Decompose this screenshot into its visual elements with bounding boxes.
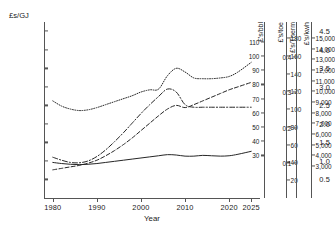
- x-tick-label: 1990: [88, 203, 105, 212]
- x-tick-label: 1980: [44, 203, 61, 212]
- x-axis-line: [44, 198, 260, 199]
- secondary-tick-label: 5,000: [316, 141, 332, 148]
- secondary-tick-mark: [261, 155, 264, 156]
- x-axis-label: Year: [144, 214, 160, 223]
- secondary-tick-mark: [261, 126, 264, 127]
- x-tick-mark: [53, 198, 54, 202]
- secondary-axis-line: [264, 22, 265, 198]
- secondary-axis-label: £'s/toe: [277, 22, 284, 42]
- secondary-tick-label: 14,000: [316, 45, 335, 52]
- secondary-tick-mark: [293, 127, 296, 128]
- secondary-tick-label: 10,000: [316, 88, 335, 95]
- secondary-tick-label: 11,000: [316, 77, 335, 84]
- series-svg: [44, 22, 260, 198]
- secondary-tick-mark: [261, 141, 264, 142]
- y-axis-label-left: £s/GJ: [9, 11, 29, 20]
- x-tick-label: 2025: [243, 203, 260, 212]
- secondary-axis-line: [296, 22, 297, 198]
- secondary-tick-label: 6,000: [316, 131, 332, 138]
- secondary-tick-mark: [261, 112, 264, 113]
- secondary-axis-label: £'s/Therm: [289, 22, 296, 53]
- secondary-tick-mark: [261, 56, 264, 57]
- secondary-tick-label: 0.2: [283, 124, 292, 131]
- secondary-tick-label: 3,000: [316, 163, 332, 170]
- secondary-tick-mark: [261, 84, 264, 85]
- secondary-axis-line: [286, 22, 287, 198]
- secondary-tick-label: 8,000: [316, 109, 332, 116]
- secondary-tick-mark: [293, 92, 296, 93]
- x-tick-label: 2010: [176, 203, 193, 212]
- x-tick-label: 2000: [132, 203, 149, 212]
- secondary-tick-mark: [261, 98, 264, 99]
- secondary-axis-label: £'s/kwh: [303, 22, 310, 45]
- x-tick-mark: [97, 198, 98, 202]
- x-tick-mark: [141, 198, 142, 202]
- secondary-tick-label: 0.1: [283, 159, 292, 166]
- secondary-tick-label: 9,000: [316, 99, 332, 106]
- secondary-tick-label: 12,000: [316, 67, 335, 74]
- secondary-tick-label: 0.3: [283, 89, 292, 96]
- series-dash-dot: [53, 89, 251, 163]
- secondary-tick-mark: [293, 162, 296, 163]
- secondary-tick-label: 4,000: [316, 152, 332, 159]
- secondary-tick-label: 0.4: [283, 54, 292, 61]
- plot-area: [44, 22, 260, 198]
- x-tick-mark: [229, 198, 230, 202]
- secondary-tick-label: 13,000: [316, 56, 335, 63]
- x-tick-label: 2020: [221, 203, 238, 212]
- secondary-tick-mark: [293, 57, 296, 58]
- secondary-tick-label: 7,000: [316, 120, 332, 127]
- secondary-tick-mark: [261, 70, 264, 71]
- x-tick-mark: [251, 198, 252, 202]
- secondary-tick-label: 15,000: [316, 35, 335, 42]
- x-tick-mark: [185, 198, 186, 202]
- secondary-tick-mark: [261, 41, 264, 42]
- series-dotted: [53, 62, 251, 110]
